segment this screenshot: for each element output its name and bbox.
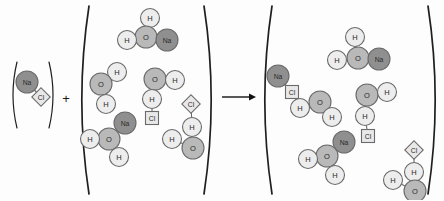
atom-h: H — [143, 90, 162, 109]
atom-shape-circle — [347, 47, 369, 69]
atom-shape-circle — [404, 180, 426, 200]
atom-na: Na — [156, 29, 178, 51]
reaction-arrow — [222, 93, 256, 100]
atom-shape-circle — [182, 137, 204, 159]
atom-na: Na — [368, 48, 390, 70]
bracket-right — [204, 6, 211, 194]
atom-h: H — [384, 171, 403, 190]
atom-shape-circle — [326, 166, 345, 185]
atom-shape-circle — [267, 65, 289, 87]
atom-h: H — [163, 130, 182, 149]
atom-shape-circle — [118, 31, 137, 50]
atom-cl: Cl — [146, 112, 159, 125]
reaction-diagram-canvas: NaClHOHNaHOHOHHClNaOHHClHOHHOHNaNaClHOHO… — [0, 0, 444, 200]
salt-solution-container: HOHNaNaClHOHOHHClNaOHHClHOH — [265, 6, 435, 200]
atom-shape-circle — [144, 68, 166, 90]
atom-shape-circle — [328, 51, 347, 70]
atom-o: O — [404, 180, 426, 200]
atom-h: H — [326, 166, 345, 185]
atom-h: H — [118, 31, 137, 50]
atom-shape-circle — [378, 83, 397, 102]
atom-shape-circle — [98, 128, 120, 150]
bracket-right — [49, 62, 53, 128]
atom-shape-circle — [143, 90, 162, 109]
atom-shape-circle — [163, 130, 182, 149]
atom-o: O — [356, 84, 378, 106]
atom-h: H — [81, 130, 100, 149]
atom-shape-circle — [316, 145, 338, 167]
atom-shape-circle — [16, 71, 38, 93]
atom-shape-circle — [346, 28, 365, 47]
atom-o: O — [144, 68, 166, 90]
atom-na: Na — [16, 71, 38, 93]
atom-shape-circle — [384, 171, 403, 190]
atom-h: H — [323, 108, 342, 127]
plus-sign: + — [62, 91, 70, 106]
atom-shape-circle — [323, 108, 342, 127]
atom-o: O — [316, 145, 338, 167]
atom-shape-square — [182, 95, 200, 113]
atom-cl: Cl — [286, 86, 299, 99]
atom-shape-circle — [141, 9, 160, 28]
atom-shape-square — [362, 130, 375, 143]
atom-shape-circle — [356, 107, 375, 126]
atom-h: H — [378, 83, 397, 102]
atom-shape-circle — [368, 48, 390, 70]
atom-o: O — [98, 128, 120, 150]
atom-shape-circle — [356, 84, 378, 106]
atom-h: H — [110, 148, 129, 167]
atom-h: H — [141, 9, 160, 28]
atom-na: Na — [114, 112, 136, 134]
atom-shape-square — [405, 141, 423, 159]
atom-shape-circle — [97, 95, 116, 114]
atom-layer: NaCl — [16, 71, 50, 106]
atom-h: H — [291, 99, 310, 118]
atom-shape-circle — [156, 29, 178, 51]
atom-shape-circle — [405, 163, 424, 182]
atom-cl: Cl — [362, 130, 375, 143]
atom-shape-circle — [291, 99, 310, 118]
atom-shape-circle — [135, 26, 157, 48]
atom-shape-circle — [183, 118, 202, 137]
atom-h: H — [346, 28, 365, 47]
sodium-chloride-container: NaCl — [13, 62, 53, 128]
atom-shape-circle — [166, 71, 185, 90]
atom-na: Na — [267, 65, 289, 87]
atom-h: H — [405, 163, 424, 182]
bracket-left — [265, 6, 272, 194]
atom-o: O — [135, 26, 157, 48]
bracket-left — [13, 62, 17, 128]
reaction-scene: NaClHOHNaHOHOHHClNaOHHClHOHHOHNaNaClHOHO… — [0, 0, 444, 200]
atom-layer: HOHNaHOHOHHClNaOHHClHOH — [81, 9, 205, 167]
atom-h: H — [356, 107, 375, 126]
atom-shape-square — [286, 86, 299, 99]
water-container: HOHNaHOHOHHClNaOHHClHOH — [81, 6, 212, 194]
atom-shape-circle — [81, 130, 100, 149]
atom-layer: HOHNaNaClHOHOHHClNaOHHClHOH — [267, 28, 426, 201]
atom-shape-circle — [90, 73, 112, 95]
atom-o: O — [90, 73, 112, 95]
atom-shape-circle — [299, 150, 318, 169]
atom-o: O — [182, 137, 204, 159]
bracket-left — [82, 6, 89, 194]
atom-shape-circle — [110, 148, 129, 167]
atom-h: H — [183, 118, 202, 137]
atom-o: O — [347, 47, 369, 69]
atom-h: H — [328, 51, 347, 70]
atom-cl: Cl — [182, 95, 200, 113]
bracket-right — [428, 6, 435, 194]
atom-shape-square — [146, 112, 159, 125]
atom-h: H — [97, 95, 116, 114]
atom-h: H — [299, 150, 318, 169]
atom-h: H — [166, 71, 185, 90]
atom-cl: Cl — [405, 141, 423, 159]
atom-shape-circle — [114, 112, 136, 134]
